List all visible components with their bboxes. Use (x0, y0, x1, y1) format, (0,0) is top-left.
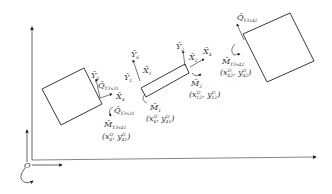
global-axes: O (21, 27, 316, 183)
rotation-arrow-icon (21, 168, 33, 183)
beam-y6-label: Ȳ6 (131, 50, 139, 60)
beam-x2-label: X̄2 (188, 53, 198, 63)
beam-m1-label: M̄1 (149, 103, 161, 113)
free-body-diagram: O Ȳ4 Q̄Y3x31 X̄4 Q̄Y3x31 M̄Y3x41 (xO4, y… (0, 0, 332, 194)
beam-right-moment-icon (192, 73, 201, 76)
beam-right-forces: Ȳ2 X̄2 X̄4 M̄2 (xO12, yO12) (176, 42, 220, 100)
beam-left-y-arrow (133, 60, 140, 81)
beam-right-coord-label: (xO12, yO12) (189, 90, 220, 100)
right-coord-label: (xO42, yO42) (220, 68, 251, 78)
right-shear-arrow (237, 24, 244, 40)
diagram-canvas: O Ȳ4 Q̄Y3x31 X̄4 Q̄Y3x31 M̄Y3x41 (xO4, y… (0, 0, 332, 194)
left-moment-icon (109, 107, 113, 116)
beam-x4-label: X̄4 (202, 47, 212, 57)
right-forces: Q̄Y3x42 M̄Y3x42 (xO42, yO42) (220, 13, 258, 78)
origin-label: O (24, 161, 31, 170)
left-x-arrow (100, 94, 112, 98)
right-shear-label: Q̄Y3x42 (237, 13, 258, 23)
global-x-axis (32, 157, 316, 160)
left-coord-label: (xO4, yO41) (102, 132, 130, 142)
beam-x1-label: X̄1 (142, 66, 152, 76)
left-x-label: X̄4 (115, 92, 125, 102)
left-shear-label: Q̄Y3x31 (98, 81, 119, 91)
beam-right-y-arrow (183, 51, 185, 66)
left-shear-lower-label: Q̄Y3x31 (114, 106, 135, 116)
beam-left-coord-label: (xO4, yO41) (146, 114, 174, 124)
right-block (243, 13, 314, 82)
beam-y2-label: Ȳ2 (176, 42, 184, 52)
right-moment-label: M̄Y3x42 (221, 57, 244, 67)
left-y-label: Ȳ4 (91, 71, 99, 81)
left-moment-label: M̄Y3x41 (103, 120, 126, 130)
right-moment-icon (232, 44, 240, 55)
beam-y1-label: Ȳ1 (124, 73, 132, 83)
beam-m2-label: M̄2 (190, 79, 202, 89)
